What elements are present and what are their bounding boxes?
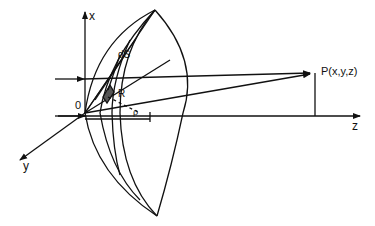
y-axis-label: y	[23, 160, 29, 172]
distance-label: R	[118, 89, 125, 99]
y-axis	[20, 113, 85, 160]
z-axis-label: z	[352, 120, 358, 132]
lens-outer-front	[155, 10, 188, 216]
origin-label: 0	[75, 100, 81, 111]
point-label: P(x,y,z)	[321, 66, 357, 77]
x-axis-label: x	[89, 10, 95, 22]
lens-outer-back	[120, 10, 157, 216]
diagram-svg	[0, 0, 375, 226]
angle-label: ρ	[133, 108, 138, 117]
surface-element-label: dS	[118, 50, 130, 60]
diagram-canvas: x y z 0 dS R ρ P(x,y,z)	[0, 0, 375, 226]
